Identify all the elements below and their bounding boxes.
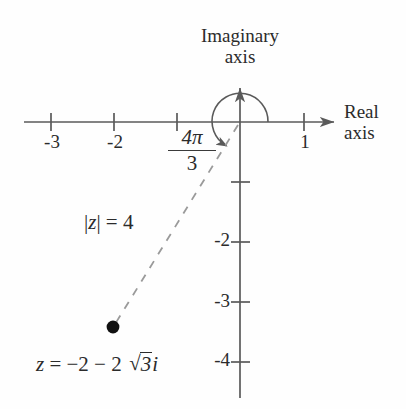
square-root-symbol: √3 — [128, 352, 152, 376]
point-variable: z — [36, 352, 44, 376]
point-equation-label: z = −2 − 2 √3i — [36, 352, 158, 376]
angle-numerator: 4π — [168, 126, 216, 151]
angle-denominator: 3 — [168, 151, 216, 175]
tick-label-x-minus2: -2 — [97, 132, 133, 153]
real-axis-label: Real axis — [344, 102, 406, 143]
modulus-bar-close-equals: | = — [96, 210, 123, 234]
plotted-point — [107, 321, 120, 334]
modulus-label: |z| = 4 — [84, 211, 133, 234]
real-axis-label-line1: Real — [344, 101, 379, 122]
point-radicand: 3 — [140, 352, 153, 376]
tick-label-y-minus2: -2 — [192, 230, 230, 251]
modulus-value: 4 — [123, 210, 134, 234]
point-equals: = — [44, 352, 66, 376]
real-axis-label-line2: axis — [344, 122, 375, 143]
tick-label-y-minus3: -3 — [192, 291, 230, 312]
imaginary-axis-label-line2: axis — [225, 46, 256, 67]
figure-canvas: Imaginary axis Real axis -3 -2 1 -2 -3 -… — [0, 0, 406, 409]
point-real-part: −2 − 2 — [67, 352, 122, 376]
point-imaginary-unit: i — [152, 352, 158, 376]
imaginary-axis-label: Imaginary axis — [186, 26, 294, 67]
imaginary-axis-label-line1: Imaginary — [201, 25, 279, 46]
angle-label-fraction: 4π 3 — [168, 126, 216, 174]
tick-label-x-minus3: -3 — [34, 132, 70, 153]
tick-label-y-minus4: -4 — [192, 350, 230, 371]
tick-label-x-plus1: 1 — [287, 132, 323, 153]
